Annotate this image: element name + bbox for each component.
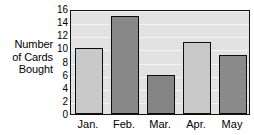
- y-axis-title: Number of Cards Bought: [0, 38, 53, 76]
- bar-chart-figure: Number of Cards Bought 0246810121416 Jan…: [0, 0, 254, 135]
- bar: [183, 42, 211, 114]
- y-axis-tick-label: 6: [54, 71, 68, 81]
- x-axis-tick-label: Mar.: [142, 117, 178, 131]
- x-axis-tick-label: Feb.: [106, 117, 142, 131]
- x-axis-tick-label: May: [214, 117, 250, 131]
- y-axis-tick-labels: 0246810121416: [54, 10, 68, 115]
- y-axis-title-line-1: Number: [0, 38, 53, 51]
- y-axis-tick-label: 8: [54, 58, 68, 68]
- bar: [111, 16, 139, 114]
- y-axis-title-line-2: of Cards: [0, 51, 53, 64]
- y-axis-tick-label: 0: [54, 110, 68, 120]
- y-axis-tick-label: 12: [54, 31, 68, 41]
- x-axis-tick-label: Apr.: [178, 117, 214, 131]
- y-axis-tick-label: 10: [54, 44, 68, 54]
- x-axis-tick-label: Jan.: [70, 117, 106, 131]
- y-axis-tick-label: 16: [54, 5, 68, 15]
- bar: [75, 48, 103, 114]
- bars-layer: [71, 11, 249, 114]
- plot-area: [70, 10, 250, 115]
- bar: [219, 55, 247, 114]
- x-axis-tick-labels: Jan.Feb.Mar.Apr.May: [70, 117, 250, 133]
- y-axis-tick-label: 14: [54, 18, 68, 28]
- y-axis-tick-label: 4: [54, 84, 68, 94]
- bar: [147, 75, 175, 114]
- y-axis-tick-label: 2: [54, 97, 68, 107]
- y-axis-title-line-3: Bought: [0, 63, 53, 76]
